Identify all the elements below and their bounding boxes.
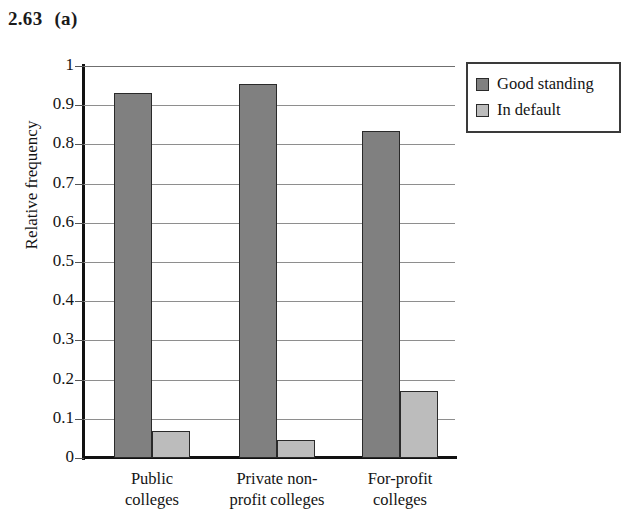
y-axis-tick [75, 380, 84, 381]
legend-item-label: Good standing [497, 74, 594, 94]
y-axis-tick-label: 0.4 [30, 291, 74, 308]
y-axis-tick-label: 0.3 [30, 330, 74, 347]
bar-chart: 10.90.80.70.60.50.40.30.20.10 Relative f… [0, 0, 630, 526]
y-axis-tick [75, 144, 84, 145]
y-axis-tick [75, 458, 84, 459]
bar-in-default [152, 431, 190, 458]
gridline [84, 66, 455, 67]
plot-area [84, 66, 455, 458]
bar-in-default [277, 440, 315, 458]
y-axis-tick-label: 0.2 [30, 370, 74, 387]
y-axis-tick-label: 0.1 [30, 409, 74, 426]
y-axis-tick [75, 184, 84, 185]
category-label-line2: colleges [320, 489, 480, 510]
bar-good-standing [362, 131, 400, 458]
y-axis-tick [75, 66, 84, 67]
y-axis-tick-label: 0 [30, 448, 74, 465]
y-axis-tick [75, 262, 84, 263]
y-axis-tick [75, 105, 84, 106]
category-label-line1: Private non- [236, 469, 317, 488]
chart-legend: Good standingIn default [466, 62, 621, 133]
bar-in-default [400, 391, 438, 458]
x-axis-category-label: For-profitcolleges [320, 468, 480, 510]
legend-item: Good standing [476, 71, 611, 97]
category-label-line1: For-profit [368, 469, 433, 488]
y-axis-tick [75, 223, 84, 224]
bar-good-standing [239, 84, 277, 458]
y-axis-tick [75, 419, 84, 420]
y-axis-title: Relative frequency [22, 90, 42, 280]
y-axis-tick [75, 301, 84, 302]
bar-good-standing [114, 93, 152, 458]
legend-swatch-in-default [476, 104, 489, 117]
category-label-line1: Public [131, 469, 173, 488]
legend-swatch-good-standing [476, 78, 489, 91]
legend-item: In default [476, 97, 611, 123]
y-axis-tick [75, 340, 84, 341]
legend-item-label: In default [497, 100, 561, 120]
y-axis-tick-label: 1 [30, 56, 74, 73]
